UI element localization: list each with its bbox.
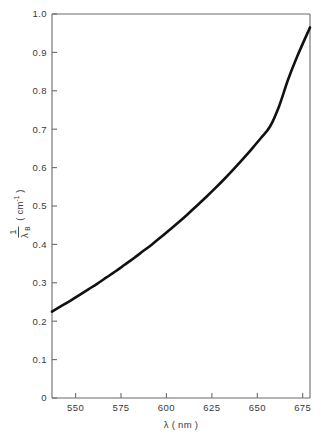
x-tick-label: 650 (249, 402, 266, 413)
y-axis-title-denominator-subscript: B (24, 226, 31, 230)
y-tick-label: 0.6 (33, 162, 47, 173)
y-tick-label: 0.7 (33, 124, 47, 135)
x-tick-label: 625 (203, 402, 220, 413)
y-tick-label: 0.5 (33, 200, 47, 211)
y-tick-label: 0.2 (33, 316, 47, 327)
y-axis-title-numerator: 1 (7, 229, 18, 235)
x-tick-label: 600 (158, 402, 175, 413)
y-tick-label: 0.4 (33, 239, 47, 250)
figure-panel: 0 0.1 0.2 0.3 0.4 0.5 0.6 0.7 0.8 0.9 1.… (0, 0, 324, 441)
y-tick-marks (52, 14, 57, 398)
data-curve (52, 27, 310, 311)
x-tick-label: 550 (67, 402, 84, 413)
data-series-group (52, 27, 310, 311)
x-tick-label: 675 (294, 402, 311, 413)
y-axis-title: 1 λ B ( cm -1 ) (7, 189, 31, 238)
y-axis-title-denominator: λ (19, 233, 30, 238)
plot-frame (52, 14, 310, 398)
x-tick-label: 575 (112, 402, 129, 413)
x-tick-marks (76, 393, 303, 398)
y-tick-label: 0.8 (33, 85, 47, 96)
y-axis-title-unit-exponent: -1 (13, 195, 20, 201)
y-axis-title-unit-close: ) (14, 189, 25, 192)
x-axis-title: λ ( nm ) (164, 419, 199, 430)
y-tick-label: 0 (41, 392, 47, 403)
y-tick-label: 1.0 (33, 8, 47, 19)
y-tick-labels: 0 0.1 0.2 0.3 0.4 0.5 0.6 0.7 0.8 0.9 1.… (33, 8, 47, 403)
x-tick-labels: 550 575 600 625 650 675 (67, 402, 311, 413)
y-tick-label: 0.3 (33, 277, 47, 288)
y-axis-title-unit-open: ( cm (14, 201, 25, 221)
y-tick-label: 0.9 (33, 47, 47, 58)
chart-svg: 0 0.1 0.2 0.3 0.4 0.5 0.6 0.7 0.8 0.9 1.… (0, 0, 324, 441)
y-tick-label: 0.1 (33, 354, 47, 365)
